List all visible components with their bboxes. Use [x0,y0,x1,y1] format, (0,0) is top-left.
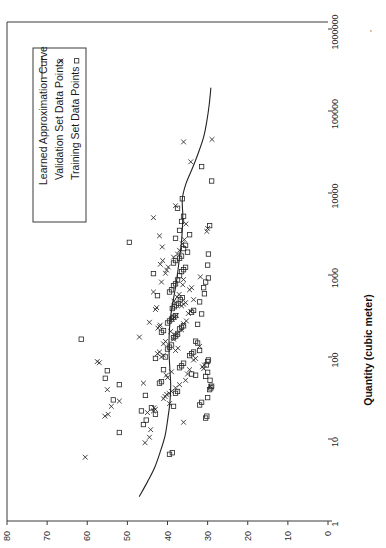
training-data-point [205,263,209,267]
training-data-point [79,337,83,341]
x-axis-tick-label: 10000 [330,183,340,208]
training-data-point [201,286,205,290]
y-axis-tick-label: 30 [203,531,213,541]
validation-data-point [188,159,193,164]
x-axis-title: Quantity (cubic meter) [362,294,374,405]
training-data-point [197,300,201,304]
training-data-point [207,223,211,227]
scatter-chart-svg: 01020304050607080 1101001000100001000001… [0,0,386,548]
validation-data-point [105,387,110,392]
training-data-point [143,393,147,397]
validation-data-point [157,324,162,329]
training-data-point [105,369,109,373]
validation-set-markers [83,137,215,460]
validation-data-point [141,381,146,386]
validation-data-point [148,427,153,432]
x-axis-tick-label: 100000 [330,99,340,129]
training-data-point [206,252,210,256]
validation-data-point [187,367,192,372]
validation-data-point [160,245,165,250]
training-data-point [117,430,121,434]
training-data-point [197,348,201,352]
training-data-point [167,452,171,456]
x-axis-tick-label: 10 [330,437,340,447]
validation-data-point [157,233,162,238]
x-axis-tick-label: 1000000 [330,14,340,49]
training-data-point [175,206,179,210]
validation-data-point [154,305,159,310]
validation-data-point [151,215,156,220]
validation-data-point [109,404,114,409]
validation-data-point [193,356,198,361]
validation-data-point [181,139,186,144]
legend: Learned Approximation Curve Validation S… [33,46,86,222]
validation-data-point [184,221,189,226]
training-data-point [161,368,165,372]
validation-data-point [159,280,164,285]
training-data-point [139,409,143,413]
validation-data-point [147,320,152,325]
y-axis-ticks-group: 01020304050607080 [2,521,333,541]
validation-data-point [181,277,186,282]
x-axis-tick-label: 1000 [330,268,340,288]
validation-data-point [184,319,189,324]
training-data-point [187,233,191,237]
y-axis-tick-label: 10 [283,531,293,541]
training-data-point [181,214,185,218]
training-data-point [151,271,155,275]
training-data-point [170,451,174,455]
validation-data-point [147,435,152,440]
training-data-point [199,164,203,168]
validation-data-point [210,137,215,142]
legend-label-curve: Learned Approximation Curve [37,46,49,185]
training-data-point [127,240,131,244]
validation-data-point [143,440,148,445]
training-data-point [103,376,107,380]
y-axis-tick-label: 50 [122,531,132,541]
legend-label-training: Training Set Data Points [69,67,81,180]
validation-data-point [158,323,163,328]
y-axis-tick-label: 80 [2,531,12,541]
x-axis-ticks-group: 1101001000100001000001000000 [328,14,340,526]
y-axis-tick-label: 40 [163,531,173,541]
training-data-point [202,292,206,296]
y-axis-tick-label: 60 [82,531,92,541]
legend-label-validation: Validation Set Data Points [53,59,65,180]
validation-data-point [181,420,186,425]
validation-data-point [137,335,142,340]
training-data-point [117,382,121,386]
training-data-point [195,322,199,326]
validation-data-point [183,378,188,383]
chart-figure: 01020304050607080 1101001000100001000001… [0,0,386,548]
training-data-point [205,395,209,399]
validation-data-point [180,282,185,287]
validation-data-point [176,346,181,351]
training-data-point [208,378,212,382]
validation-data-point [189,285,194,290]
validation-data-point [177,382,182,387]
validation-data-point [145,410,150,415]
validation-data-point [151,290,156,295]
training-data-point [173,236,177,240]
scan-artifact-mark: ' [370,28,372,38]
training-data-point [141,422,145,426]
validation-data-point [95,359,100,364]
learned-approximation-curve [139,88,210,496]
x-axis-tick-label: 1 [330,521,340,526]
validation-data-point [83,455,88,460]
validation-data-point [177,292,182,297]
validation-data-point [163,339,168,344]
training-data-point [177,228,181,232]
training-set-markers [79,164,214,456]
training-data-point [111,398,115,402]
training-data-point [171,404,175,408]
validation-data-point [117,399,122,404]
training-data-point [209,179,213,183]
y-axis-tick-label: 0 [323,531,333,536]
validation-data-point [198,274,203,279]
training-data-point [199,312,203,316]
training-data-point [144,418,148,422]
y-axis-tick-label: 70 [42,531,52,541]
validation-data-point [157,350,162,355]
training-data-point [153,356,157,360]
